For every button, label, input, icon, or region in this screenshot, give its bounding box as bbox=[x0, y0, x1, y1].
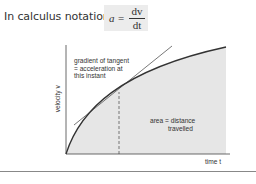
velocity-time-graph bbox=[0, 0, 256, 184]
gradient-annotation: gradient of tangent = acceleration at th… bbox=[74, 57, 129, 80]
area-annotation: area = distance travelled bbox=[150, 117, 195, 132]
x-axis-label: time t bbox=[205, 158, 221, 166]
gradient-annotation-line1: gradient of tangent bbox=[74, 57, 129, 65]
area-annotation-line1: area = distance bbox=[150, 117, 195, 125]
gradient-annotation-line3: this instant bbox=[74, 72, 129, 80]
divider-rule bbox=[0, 171, 256, 172]
area-annotation-line2: travelled bbox=[150, 125, 195, 133]
gradient-annotation-line2: = acceleration at bbox=[74, 65, 129, 73]
y-axis-label: velocity v bbox=[54, 79, 62, 119]
